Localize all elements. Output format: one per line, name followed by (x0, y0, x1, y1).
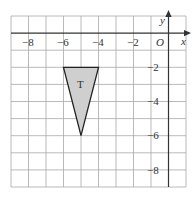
coordinate-grid: T x y O −8 −6 −4 −2 −2 −4 −6 −8 (0, 0, 194, 202)
x-tick-label: −8 (22, 36, 34, 48)
x-tick-label: −6 (57, 36, 69, 48)
x-tick-label: −2 (127, 36, 139, 48)
x-tick-label: −4 (92, 36, 104, 48)
origin-label: O (156, 36, 164, 48)
y-tick-label: −8 (147, 164, 159, 176)
x-axis-label: x (180, 35, 186, 47)
y-tick-label: −2 (147, 61, 159, 73)
y-axis-label: y (159, 14, 165, 26)
y-tick-label: −6 (147, 129, 159, 141)
y-tick-label: −4 (147, 95, 159, 107)
y-axis-arrow-icon (165, 10, 171, 17)
triangle-T-label: T (77, 78, 84, 90)
